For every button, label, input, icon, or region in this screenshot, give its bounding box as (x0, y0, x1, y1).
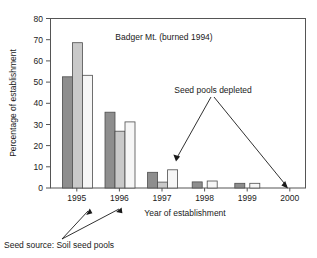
y-tick-label-50: 50 (34, 77, 44, 87)
x-tick-label-1995: 1995 (67, 193, 86, 203)
bar-1999-dark (235, 183, 245, 188)
x-tick-label-1996: 1996 (110, 193, 129, 203)
bar-chart-svg: 0 10 20 30 40 50 60 70 80 Percentage of … (0, 0, 317, 258)
bar-1995-white (82, 75, 92, 188)
y-tick-label-80: 80 (34, 14, 44, 24)
y-axis-tick-labels: 0 10 20 30 40 50 60 70 80 (34, 14, 44, 194)
x-tick-label-1998: 1998 (195, 193, 214, 203)
bar-1997-white (168, 170, 178, 188)
y-tick-label-0: 0 (38, 183, 43, 193)
annotation-seed-source: Seed source: Soil seed pools (4, 240, 114, 250)
x-axis-title: Year of establishment (144, 208, 226, 218)
bar-1996-dark (105, 112, 115, 188)
y-tick-label-30: 30 (34, 120, 44, 130)
y-tick-label-10: 10 (34, 162, 44, 172)
bar-1996-light (115, 131, 125, 188)
bar-1998-dark (192, 182, 202, 188)
chart-title: Badger Mt. (burned 1994) (115, 32, 213, 42)
y-tick-label-60: 60 (34, 56, 44, 66)
y-tick-label-20: 20 (34, 141, 44, 151)
chart-figure: 0 10 20 30 40 50 60 70 80 Percentage of … (0, 0, 317, 258)
y-axis-title: Percentage of establishment (8, 48, 18, 156)
bar-1996-white (125, 122, 135, 188)
bar-1995-dark (62, 77, 72, 188)
y-tick-label-70: 70 (34, 35, 44, 45)
bar-1999-light (250, 183, 260, 188)
x-tick-label-1999: 1999 (238, 193, 257, 203)
bar-1997-light (158, 182, 168, 188)
y-tick-label-40: 40 (34, 98, 44, 108)
annotation-seed-pools-depleted: Seed pools depleted (174, 85, 252, 95)
bar-1997-dark (148, 172, 158, 188)
bar-1995-light (72, 43, 82, 188)
x-tick-label-2000: 2000 (280, 193, 299, 203)
x-tick-label-1997: 1997 (153, 193, 172, 203)
bar-1998-white (207, 181, 217, 188)
